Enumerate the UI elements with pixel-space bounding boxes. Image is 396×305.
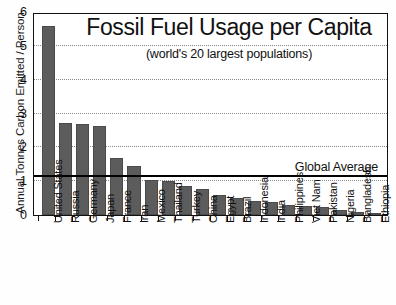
x-axis-label: United States (52, 160, 64, 223)
y-tick-label-6: 6 (3, 5, 27, 19)
x-axis-label: Philippines (293, 172, 305, 223)
y-tick-label-4: 4 (3, 73, 27, 87)
x-axis-label: Viet Nam (310, 180, 322, 223)
y-tick-label-3: 3 (3, 107, 27, 121)
y-tick-label-2: 2 (3, 140, 27, 154)
y-tick-label-5: 5 (3, 39, 27, 53)
x-axis-label: Japan (104, 194, 116, 223)
x-tick-mark (38, 216, 39, 221)
x-axis-label: Ethiopia (379, 185, 391, 223)
x-axis-label: France (121, 190, 133, 223)
y-tick-label-0: 0 (3, 208, 27, 222)
x-axis-label: Bangladesh (361, 167, 373, 223)
y-tick-label-1: 1 (3, 174, 27, 188)
chart-subtitle: (world's 20 largest populations) (70, 47, 388, 61)
x-axis-label: Turkey (190, 191, 202, 223)
x-axis-label: Thailand (172, 182, 184, 223)
chart-title: Fossil Fuel Usage per Capita (70, 14, 388, 41)
x-axis-label: Mexico (155, 189, 167, 223)
x-axis-label: India (275, 200, 287, 223)
x-axis-label: Germany (87, 179, 99, 223)
global-average-line (34, 175, 387, 177)
x-axis-label: Iran (138, 205, 150, 223)
x-axis-label: Brazil (241, 197, 253, 223)
x-axis-label: Pakistan (327, 182, 339, 223)
fossil-fuel-bar-chart: Annual Tonnes Carbon Emitted / Person 01… (0, 0, 396, 305)
x-axis-label: China (207, 195, 219, 223)
x-axis-label: Russia (69, 191, 81, 223)
x-axis-label: Egypt (224, 196, 236, 223)
gridline-4 (34, 79, 387, 80)
x-axis-label: Nigeria (344, 190, 356, 223)
gridline-3 (34, 113, 387, 114)
x-axis-label: Indonesia (258, 177, 270, 223)
